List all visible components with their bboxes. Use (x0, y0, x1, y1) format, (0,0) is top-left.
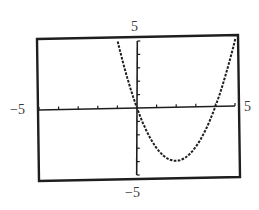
x-max-label: 5 (244, 100, 251, 114)
y-max-label: 5 (131, 20, 138, 34)
plot-canvas (0, 0, 259, 210)
parabola-curve (118, 39, 236, 161)
x-min-label: −5 (10, 103, 25, 117)
graphing-calculator-plot: 5 −5 −5 5 (0, 0, 259, 210)
y-min-label: −5 (125, 186, 140, 200)
